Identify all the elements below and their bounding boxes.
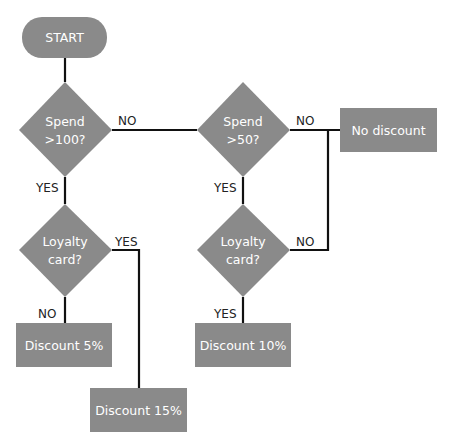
outcome-label: Discount 10%	[200, 338, 287, 353]
outcome-label: No discount	[351, 123, 425, 138]
decision-diamond	[19, 82, 112, 177]
decision-line2: >50?	[226, 132, 259, 147]
edge-loyalty2-no	[290, 130, 328, 250]
node-start: START	[22, 17, 107, 58]
label-spend100-yes: YES	[35, 181, 59, 195]
decision-diamond	[19, 204, 112, 297]
decision-line1: Spend	[223, 114, 262, 129]
label-spend50-yes: YES	[213, 181, 237, 195]
decision-line1: Loyalty	[42, 234, 88, 249]
node-discount5: Discount 5%	[16, 323, 112, 367]
edge-loyalty1-yes	[112, 250, 139, 388]
decision-line2: card?	[48, 252, 82, 267]
decision-diamond	[197, 204, 290, 297]
outcome-label: Discount 5%	[25, 338, 104, 353]
node-loyalty2: Loyalty card?	[197, 204, 290, 297]
label-loyalty1-yes: YES	[114, 235, 138, 249]
node-loyalty1: Loyalty card?	[19, 204, 112, 297]
decision-line1: Loyalty	[220, 234, 266, 249]
label-spend50-no: NO	[296, 114, 314, 128]
flowchart-canvas: NO YES NO YES NO YES YES NO START Spend …	[0, 0, 451, 447]
node-discount10: Discount 10%	[195, 323, 291, 367]
label-loyalty1-no: NO	[38, 307, 56, 321]
node-spend100: Spend >100?	[19, 82, 112, 177]
label-loyalty2-no: NO	[296, 235, 314, 249]
node-no-discount: No discount	[340, 108, 437, 152]
decision-diamond	[197, 82, 290, 177]
label-spend100-no: NO	[118, 114, 136, 128]
node-discount15: Discount 15%	[90, 388, 187, 432]
decision-line1: Spend	[45, 114, 84, 129]
label-loyalty2-yes: YES	[213, 307, 237, 321]
outcome-label: Discount 15%	[95, 403, 182, 418]
decision-line2: >100?	[45, 132, 86, 147]
decision-line2: card?	[226, 252, 260, 267]
node-spend50: Spend >50?	[197, 82, 290, 177]
start-label: START	[45, 30, 84, 45]
